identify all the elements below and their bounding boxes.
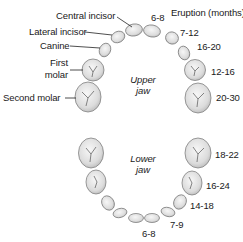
upper-first-molar-left — [82, 59, 104, 81]
label-canine: Canine — [40, 41, 70, 51]
lower-lateral-incisor-right — [160, 206, 176, 218]
lower-eruption-central-incisor: 6-8 — [142, 229, 155, 239]
lower-eruption-second-molar: 18-22 — [215, 150, 239, 160]
lower-canine-right — [171, 193, 189, 212]
upper-central-incisor-left — [125, 23, 144, 38]
lower-central-incisor-right — [145, 214, 160, 223]
upper-jaw-title-line2: jaw — [126, 86, 160, 96]
upper-eruption-central-incisor: 6-8 — [151, 13, 164, 23]
lower-eruption-lateral-incisor: 7-9 — [170, 220, 183, 230]
lower-central-incisor-left — [129, 214, 144, 223]
upper-canine-right — [176, 45, 191, 62]
label-first-molar-line1: First — [38, 58, 68, 68]
eruption-title: Eruption (months) — [171, 8, 243, 18]
lower-second-molar-right — [185, 138, 211, 168]
lower-eruption-first-molar: 16-24 — [206, 181, 230, 191]
upper-eruption-second-molar: 20-30 — [216, 93, 240, 103]
lower-first-molar-left — [86, 170, 106, 194]
upper-jaw-title-line1: Upper — [126, 75, 160, 85]
lower-jaw-title-line1: Lower — [126, 154, 160, 164]
upper-eruption-first-molar: 12-16 — [211, 67, 235, 77]
lower-eruption-canine: 14-18 — [190, 201, 214, 211]
upper-central-incisor-right — [143, 24, 162, 39]
upper-first-molar-right — [185, 60, 206, 81]
lower-lateral-incisor-left — [112, 207, 128, 219]
label-lateral-incisor: Lateral incisor — [29, 27, 87, 37]
lower-canine-left — [99, 194, 117, 213]
upper-lateral-incisor-left — [109, 29, 126, 45]
label-second-molar: Second molar — [3, 93, 60, 103]
upper-second-molar-right — [185, 83, 211, 113]
upper-second-molar-left — [75, 82, 101, 112]
lower-second-molar-left — [79, 138, 104, 168]
lower-jaw-title-line2: jaw — [126, 165, 160, 175]
upper-lateral-incisor-right — [164, 30, 181, 46]
label-first-molar-line2: molar — [38, 70, 68, 80]
label-central-incisor: Central incisor — [56, 11, 115, 21]
upper-eruption-lateral-incisor: 7-12 — [180, 28, 199, 38]
upper-canine-left — [97, 41, 113, 58]
upper-eruption-canine: 16-20 — [197, 42, 221, 52]
